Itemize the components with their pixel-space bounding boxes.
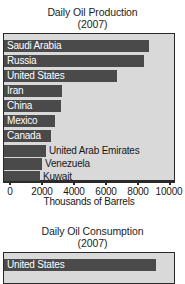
x-axis-production: 0 2000 4000 6000 8000 10000 Thousands of…: [3, 181, 175, 207]
bars-container: United States: [4, 253, 174, 283]
bar-label: Saudi Arabia: [4, 40, 61, 52]
plot-area-production: Saudi Arabia Russia United States Iran: [3, 33, 175, 181]
chart-title-consumption: Daily Oil Consumption (2007): [0, 225, 185, 249]
axis-tick: [9, 181, 11, 185]
bar-label: Russia: [4, 55, 36, 67]
bar-russia: Russia: [4, 55, 144, 67]
bar-label: United States: [4, 259, 64, 271]
bar-saudi-arabia: Saudi Arabia: [4, 40, 149, 52]
bar-united-states-consumption: United States: [4, 259, 156, 271]
bar-row: Russia: [4, 55, 144, 67]
daily-oil-consumption-chart: Daily Oil Consumption (2007) United Stat…: [0, 225, 185, 284]
bar-label: Iran: [4, 85, 23, 97]
chart-title-production: Daily Oil Production (2007): [0, 0, 185, 30]
daily-oil-production-chart: Daily Oil Production (2007) Saudi Arabia…: [0, 0, 185, 207]
chart-title-line1: Daily Oil Production: [0, 6, 185, 18]
bar-mexico: Mexico: [4, 115, 55, 127]
bar-label: Venezuela: [42, 158, 90, 170]
bar-label: China: [4, 100, 32, 112]
bar-row: United States: [4, 70, 117, 82]
bar-iran: Iran: [4, 85, 62, 97]
axis-tick: [137, 181, 139, 185]
bar-row: Iran: [4, 85, 62, 97]
bar-venezuela: [4, 158, 42, 170]
axis-tick: [105, 181, 107, 185]
chart-title-line2: (2007): [0, 237, 185, 249]
bars-container: Saudi Arabia Russia United States Iran: [4, 34, 174, 180]
x-axis-title: Thousands of Barrels: [3, 196, 175, 207]
axis-tick: [41, 181, 43, 185]
bar-label: Canada: [4, 130, 41, 142]
bar-label: United Arab Emirates: [46, 145, 140, 157]
chart-title-line1: Daily Oil Consumption: [0, 225, 185, 237]
bar-row: Saudi Arabia: [4, 40, 149, 52]
bar-row: Mexico: [4, 115, 55, 127]
bar-united-arab-emirates: [4, 145, 46, 157]
chart-title-line2: (2007): [0, 18, 185, 30]
axis-line: [3, 181, 175, 183]
axis-tick: [169, 181, 171, 185]
bar-label: Mexico: [4, 115, 37, 127]
bar-row: China: [4, 100, 61, 112]
bar-united-states: United States: [4, 70, 117, 82]
bar-label: United States: [4, 70, 64, 82]
bar-canada: Canada: [4, 130, 51, 142]
bar-china: China: [4, 100, 61, 112]
bar-row: United States: [4, 259, 156, 271]
bar-row: United Arab Emirates: [4, 145, 140, 157]
axis-tick: [73, 181, 75, 185]
bar-row: Canada: [4, 130, 51, 142]
bar-row: Venezuela: [4, 158, 90, 170]
plot-area-consumption: United States: [3, 252, 175, 284]
